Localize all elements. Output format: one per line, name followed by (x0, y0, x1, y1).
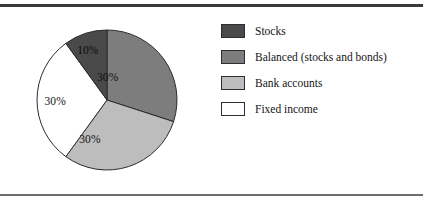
chart-legend: StocksBalanced (stocks and bonds)Bank ac… (221, 18, 417, 122)
pie-slice-label: 30% (97, 71, 118, 83)
bottom-rule (0, 194, 423, 196)
legend-item-label: Bank accounts (255, 76, 322, 90)
pie-slice-label: 30% (79, 133, 100, 145)
legend-swatch (221, 50, 245, 64)
legend-item: Stocks (221, 18, 417, 44)
legend-item: Bank accounts (221, 70, 417, 96)
legend-item-label: Balanced (stocks and bonds) (255, 50, 387, 64)
legend-item: Fixed income (221, 96, 417, 122)
top-rule (0, 4, 423, 7)
pie-chart-figure: 30%30%30%10% StocksBalanced (stocks and … (0, 0, 423, 208)
legend-item: Balanced (stocks and bonds) (221, 44, 417, 70)
legend-swatch (221, 102, 245, 116)
legend-swatch (221, 24, 245, 38)
pie-slice-label: 10% (77, 44, 98, 56)
pie-chart: 30%30%30%10% (36, 29, 178, 171)
legend-item-label: Fixed income (255, 102, 318, 116)
legend-swatch (221, 76, 245, 90)
legend-item-label: Stocks (255, 24, 286, 38)
pie-slice-label: 30% (44, 95, 65, 107)
